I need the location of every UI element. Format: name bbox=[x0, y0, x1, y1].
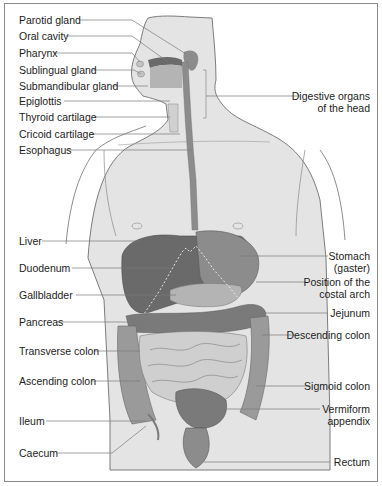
label-pancreas: Pancreas bbox=[19, 316, 63, 328]
label-caecum: Caecum bbox=[19, 447, 58, 459]
label-rectum: Rectum bbox=[334, 456, 370, 468]
label-submandibular-gland: Submandibular gland bbox=[19, 80, 118, 92]
label-sigmoid-colon: Sigmoid colon bbox=[304, 380, 370, 392]
label-liver: Liver bbox=[19, 235, 42, 247]
label-transverse-colon: Transverse colon bbox=[19, 345, 99, 357]
label-vermiform-appendix: Vermiform appendix bbox=[322, 403, 370, 427]
label-oral-cavity: Oral cavity bbox=[19, 30, 69, 42]
label-duodenum: Duodenum bbox=[19, 262, 70, 274]
label-jejunum: Jejunum bbox=[330, 307, 370, 319]
label-descending-colon: Descending colon bbox=[287, 329, 370, 341]
label-thyroid-cartilage: Thyroid cartilage bbox=[19, 111, 97, 123]
label-digestive-organs-head: Digestive organs of the head bbox=[292, 90, 370, 114]
label-stomach: Stomach (gaster) bbox=[329, 250, 370, 274]
label-sublingual-gland: Sublingual gland bbox=[19, 64, 97, 76]
label-ascending-colon: Ascending colon bbox=[19, 375, 96, 387]
label-gallbladder: Gallbladder bbox=[19, 289, 73, 301]
label-costal-arch: Position of the costal arch bbox=[303, 276, 370, 300]
label-esophagus: Esophagus bbox=[19, 144, 72, 156]
label-epiglottis: Epiglottis bbox=[19, 95, 62, 107]
label-parotid-gland: Parotid gland bbox=[19, 14, 81, 26]
label-cricoid-cartilage: Cricoid cartilage bbox=[19, 128, 94, 140]
label-pharynx: Pharynx bbox=[19, 47, 58, 59]
label-ileum: Ileum bbox=[19, 415, 45, 427]
